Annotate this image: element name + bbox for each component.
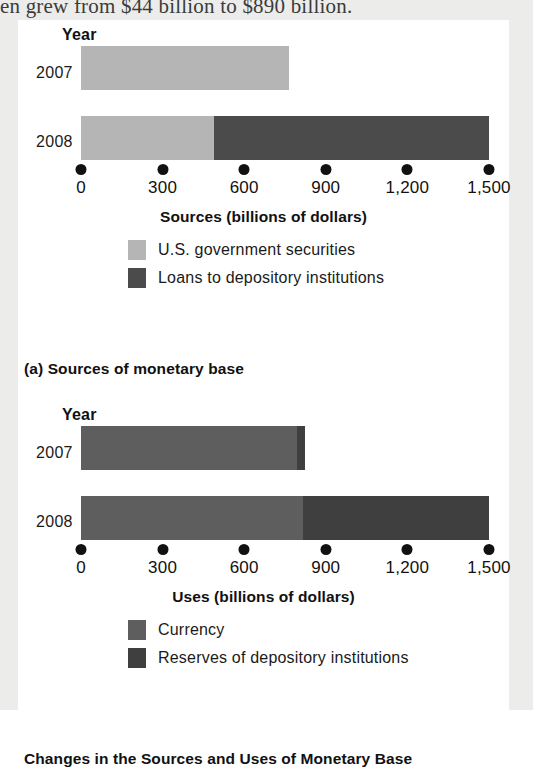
- axis-title-a: Sources (billions of dollars): [18, 208, 509, 226]
- x-axis-a: 03006009001,2001,500: [18, 160, 509, 210]
- axis-tick-dot-a-4: [402, 164, 413, 175]
- axis-tick-label-a-0: 0: [76, 178, 86, 198]
- bar-2008-a: [81, 116, 489, 160]
- legend-label-b-0: Currency: [158, 621, 225, 639]
- axis-tick-dot-b-2: [239, 544, 250, 555]
- panel-caption-a: (a) Sources of monetary base: [24, 360, 244, 378]
- axis-tick-label-a-1: 300: [148, 178, 177, 198]
- axis-title-b: Uses (billions of dollars): [18, 588, 509, 606]
- bar-segment-b-2007-1: [297, 426, 305, 470]
- axis-tick-dot-b-5: [484, 544, 495, 555]
- axis-tick-label-b-0: 0: [76, 558, 86, 578]
- bar-2007-b: [81, 426, 305, 470]
- axis-tick-dot-b-1: [157, 544, 168, 555]
- legend-item-b-1: Reserves of depository institutions: [128, 644, 409, 672]
- legend-item-a-0: U.S. government securities: [128, 236, 384, 264]
- axis-tick-label-a-4: 1,200: [386, 178, 430, 198]
- bar-segment-a-2007-0: [81, 46, 289, 90]
- axis-tick-label-a-3: 900: [311, 178, 340, 198]
- legend-label-a-1: Loans to depository institutions: [158, 269, 384, 287]
- axis-tick-label-b-3: 900: [311, 558, 340, 578]
- axis-tick-label-a-5: 1,500: [467, 178, 511, 198]
- figure-title: Changes in the Sources and Uses of Monet…: [24, 750, 412, 768]
- legend-swatch-icon-a-0: [128, 240, 146, 260]
- axis-tick-dot-a-2: [239, 164, 250, 175]
- legend-a: U.S. government securitiesLoans to depos…: [128, 236, 384, 292]
- axis-tick-dot-b-3: [320, 544, 331, 555]
- bar-segment-b-2008-1: [303, 496, 489, 540]
- x-axis-b: 03006009001,2001,500: [18, 540, 509, 590]
- legend-label-a-0: U.S. government securities: [158, 241, 355, 259]
- plot-area-a: 2007 2008: [18, 20, 509, 180]
- running-body-text: en grew from $44 billion to $890 billion…: [0, 0, 533, 20]
- axis-tick-label-a-2: 600: [230, 178, 259, 198]
- axis-tick-label-b-4: 1,200: [386, 558, 430, 578]
- axis-tick-dot-a-5: [484, 164, 495, 175]
- axis-tick-dot-a-3: [320, 164, 331, 175]
- axis-tick-label-b-1: 300: [148, 558, 177, 578]
- legend-swatch-icon-b-1: [128, 648, 146, 668]
- bar-segment-a-2008-0: [81, 116, 214, 160]
- axis-tick-dot-a-1: [157, 164, 168, 175]
- bar-segment-b-2008-0: [81, 496, 303, 540]
- legend-swatch-icon-a-1: [128, 268, 146, 288]
- bar-segment-a-2008-1: [214, 116, 489, 160]
- axis-tick-dot-b-0: [76, 544, 87, 555]
- legend-item-b-0: Currency: [128, 616, 409, 644]
- axis-tick-dot-a-0: [76, 164, 87, 175]
- legend-swatch-icon-b-0: [128, 620, 146, 640]
- legend-b: CurrencyReserves of depository instituti…: [128, 616, 409, 672]
- bar-2008-b: [81, 496, 489, 540]
- figure-card: Year 2007 2008 03006009001,2001,500 Sour…: [18, 20, 509, 710]
- axis-tick-dot-b-4: [402, 544, 413, 555]
- axis-tick-label-b-2: 600: [230, 558, 259, 578]
- legend-label-b-1: Reserves of depository institutions: [158, 649, 409, 667]
- axis-tick-label-b-5: 1,500: [467, 558, 511, 578]
- figure-title-strip: Changes in the Sources and Uses of Monet…: [0, 710, 533, 778]
- figure-page: en grew from $44 billion to $890 billion…: [0, 0, 533, 778]
- bar-2007-a: [81, 46, 289, 90]
- legend-item-a-1: Loans to depository institutions: [128, 264, 384, 292]
- bar-segment-b-2007-0: [81, 426, 297, 470]
- plot-area-b: 2007 2008: [18, 400, 509, 560]
